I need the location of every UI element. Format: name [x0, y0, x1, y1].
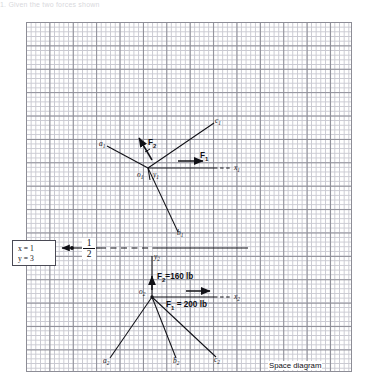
- scale-fraction-numerator: 1: [82, 238, 96, 248]
- upper-label-force1: F1: [200, 152, 208, 162]
- lower-label-force1: F1 = 200 lb: [166, 301, 207, 311]
- upper-label-a1: a1: [99, 140, 105, 150]
- lower-origin-dot: [150, 295, 153, 298]
- upper-label-c1: c1: [215, 117, 221, 127]
- lower-label-x2: x2: [234, 293, 240, 303]
- lower-ray-a2: [110, 297, 152, 358]
- upper-label-x1: x1: [234, 164, 240, 174]
- coordinate-callout-box: x = 1 y = 3: [12, 240, 56, 266]
- scale-fraction: 1 2: [82, 238, 96, 259]
- upper-ray-a1: [107, 146, 148, 168]
- lower-label-b2: b2: [173, 357, 179, 367]
- upper-label-y1: y1: [153, 171, 159, 181]
- lower-label-a2: a2: [103, 357, 109, 367]
- lower-label-c2: c2: [214, 356, 220, 366]
- separator-node-dot: [70, 246, 74, 250]
- callout-x-value: x = 1: [18, 244, 55, 254]
- lower-label-y2: y2: [154, 253, 160, 263]
- lower-label-force2: F2=160 lb: [157, 273, 193, 283]
- upper-label-b1: b1: [177, 229, 183, 239]
- upper-label-force2: F2: [148, 139, 156, 149]
- callout-y-value: y = 3: [18, 254, 55, 264]
- lower-label-o2: o2: [139, 288, 145, 298]
- upper-label-o1: o1: [137, 171, 143, 181]
- scale-fraction-denominator: 2: [82, 249, 96, 259]
- diagram-vectors: [0, 0, 366, 385]
- space-diagram-page: 1. Given the two forces shown: [0, 0, 366, 385]
- diagram-caption: Space diagram: [268, 361, 322, 370]
